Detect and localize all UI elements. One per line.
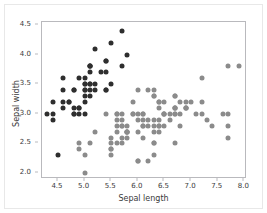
data-point (162, 111, 167, 116)
y-tick-label: 2.5 (20, 138, 31, 146)
y-tick-label: 4.0 (20, 50, 31, 58)
data-point (135, 117, 140, 122)
data-point (226, 64, 231, 69)
data-point (114, 141, 119, 146)
data-point (114, 117, 119, 122)
data-point (183, 105, 188, 110)
data-point (82, 153, 87, 158)
y-tick-mark (35, 172, 38, 173)
data-point (82, 111, 87, 116)
scatter-plot-figure: Sepal width 2.02.53.03.54.04.5 4.55.05.5… (0, 0, 267, 213)
y-tick-label: 3.0 (20, 109, 31, 117)
data-point (109, 141, 114, 146)
data-point (109, 153, 114, 158)
data-point (151, 141, 156, 146)
data-point (50, 111, 55, 116)
data-point (157, 105, 162, 110)
data-point (77, 105, 82, 110)
data-point (189, 99, 194, 104)
data-point (135, 111, 140, 116)
data-point (167, 117, 172, 122)
x-axis-label: Sepal length (41, 194, 246, 203)
data-point (87, 64, 92, 69)
data-point (151, 153, 156, 158)
y-axis-ticks: 2.02.53.03.54.04.5 (0, 21, 38, 178)
data-point (162, 123, 167, 128)
x-tick-label: 6.5 (158, 182, 169, 190)
x-tick-label: 8.0 (238, 182, 249, 190)
data-point (167, 111, 172, 116)
data-point (125, 129, 130, 134)
data-point (141, 117, 146, 122)
data-point (199, 76, 204, 81)
data-point (82, 94, 87, 99)
y-tick-mark (35, 112, 38, 113)
data-point (119, 111, 124, 116)
data-point (103, 88, 108, 93)
data-point (151, 117, 156, 122)
data-point (87, 88, 92, 93)
x-tick-mark (136, 178, 137, 181)
data-point (157, 129, 162, 134)
data-point (141, 135, 146, 140)
x-tick-mark (190, 178, 191, 181)
data-point (82, 171, 87, 176)
x-tick-label: 5.0 (78, 182, 89, 190)
data-point (183, 99, 188, 104)
data-point (130, 99, 135, 104)
data-point (146, 88, 151, 93)
data-point (157, 123, 162, 128)
data-point (141, 123, 146, 128)
data-point (173, 141, 178, 146)
data-point (210, 123, 215, 128)
data-point (205, 117, 210, 122)
data-point (119, 135, 124, 140)
x-tick-mark (163, 178, 164, 181)
data-point (151, 129, 156, 134)
data-point (173, 94, 178, 99)
data-point (237, 64, 242, 69)
plot-area (42, 22, 245, 177)
data-point (93, 82, 98, 87)
x-tick-mark (243, 178, 244, 181)
data-point (61, 99, 66, 104)
x-tick-mark (216, 178, 217, 181)
data-point (157, 99, 162, 104)
data-point (103, 111, 108, 116)
data-point (93, 88, 98, 93)
y-tick-mark (35, 142, 38, 143)
data-point (114, 123, 119, 128)
data-point (162, 99, 167, 104)
x-tick-mark (83, 178, 84, 181)
data-point (77, 147, 82, 152)
data-point (66, 99, 71, 104)
x-tick-label: 7.0 (185, 182, 196, 190)
plot-frame (41, 21, 246, 178)
data-point (221, 111, 226, 116)
data-point (173, 105, 178, 110)
data-point (77, 141, 82, 146)
data-point (103, 70, 108, 75)
data-point (178, 99, 183, 104)
x-axis-ticks: 4.55.05.56.06.57.07.58.0 (41, 178, 246, 192)
data-point (114, 129, 119, 134)
data-point (146, 159, 151, 164)
data-point (109, 135, 114, 140)
data-point (87, 82, 92, 87)
data-point (87, 70, 92, 75)
data-point (125, 135, 130, 140)
data-point (125, 52, 130, 57)
data-point (135, 88, 140, 93)
data-point (77, 111, 82, 116)
data-point (82, 82, 87, 87)
data-point (119, 64, 124, 69)
data-point (61, 88, 66, 93)
y-tick-mark (35, 23, 38, 24)
data-point (103, 58, 108, 63)
data-point (50, 117, 55, 122)
data-point (93, 46, 98, 51)
data-point (71, 88, 76, 93)
data-point (45, 111, 50, 116)
data-point (77, 76, 82, 81)
data-point (199, 99, 204, 104)
